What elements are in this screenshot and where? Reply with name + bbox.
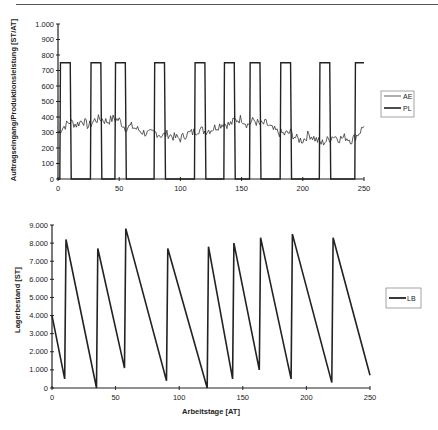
x-tick-label: 150 (237, 393, 250, 402)
y-tick-label: 8.000 (29, 239, 48, 248)
chart2-x-axis-label: Arbeitstage [AT] (182, 407, 240, 416)
y-tick-label: 4.000 (29, 311, 48, 320)
chart-inventory: 05010015020025001.0002.0003.0004.0005.00… (0, 0, 438, 430)
chart2-y-axis-label: Lagerbestand [ST] (13, 267, 22, 333)
chart2-plot-area (52, 229, 370, 388)
x-tick-label: 0 (50, 393, 54, 402)
legend-lb-label: LB (407, 295, 416, 302)
x-tick-label: 100 (173, 393, 186, 402)
y-tick-label: 6.000 (29, 275, 48, 284)
y-tick-label: 7.000 (29, 257, 48, 266)
y-tick-label: 0 (44, 384, 48, 393)
series-lb-line (52, 229, 370, 388)
y-tick-label: 3.000 (29, 329, 48, 338)
y-tick-label: 1.000 (29, 365, 48, 374)
x-tick-label: 50 (111, 393, 119, 402)
y-tick-label: 5.000 (29, 293, 48, 302)
x-tick-label: 200 (300, 393, 313, 402)
chart2-legend: LB (386, 288, 421, 308)
x-tick-label: 250 (364, 393, 377, 402)
y-tick-label: 9.000 (29, 221, 48, 230)
y-tick-label: 2.000 (29, 347, 48, 356)
